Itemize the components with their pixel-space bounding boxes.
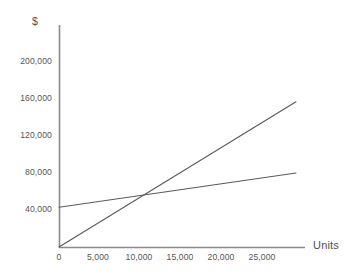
plot-area <box>0 0 361 280</box>
x-tick-label-0: 0 <box>45 253 73 262</box>
y-axis-title: $ <box>32 16 38 27</box>
y-tick-label-80000: 80,000 <box>0 168 52 177</box>
y-tick-label-160000: 160,000 <box>0 94 52 103</box>
y-tick-label-40000: 40,000 <box>0 205 52 214</box>
y-tick-label-120000: 120,000 <box>0 131 52 140</box>
x-tick-label-25000: 25,000 <box>237 253 287 262</box>
total-cost-line <box>59 173 296 207</box>
x-axis-title: Units <box>313 240 339 251</box>
y-tick-label-200000: 200,000 <box>0 57 52 66</box>
chart-canvas: $ 200,000 160,000 120,000 80,000 40,000 … <box>0 0 361 280</box>
revenue-line <box>59 102 296 247</box>
